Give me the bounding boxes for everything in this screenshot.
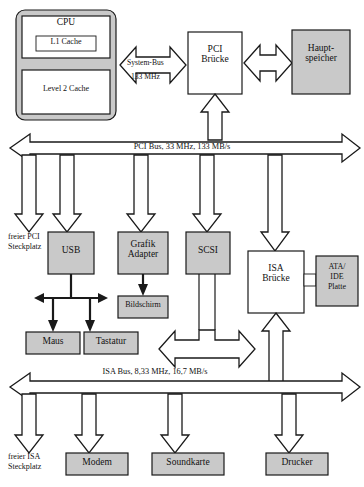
soundkarte-box — [152, 453, 224, 475]
grafik-adapter-box — [118, 232, 168, 274]
isa-bridge-from-bus-arrow — [262, 313, 290, 387]
tastatur-arrowhead — [85, 320, 95, 332]
system-bus-arrow — [120, 47, 186, 83]
maus-arrowhead — [48, 320, 58, 332]
isa-branch-drucker — [275, 394, 303, 453]
pci-bridge-box — [188, 32, 242, 94]
main-memory-box — [292, 30, 350, 94]
pci-branch-free-slot — [15, 155, 43, 232]
scsi-bus-arrow — [159, 330, 255, 367]
isa-bridge-box — [248, 251, 304, 313]
isa-ata-connector — [304, 274, 316, 286]
pci-bridge-to-bus-arrow — [201, 94, 229, 140]
pci-branch-grafik — [127, 155, 155, 232]
bildschirm-arrowhead — [138, 284, 148, 296]
isa-branch-soundkarte — [161, 394, 189, 453]
maus-box — [26, 332, 80, 354]
usb-box — [48, 232, 94, 274]
memory-bus-arrow — [244, 45, 292, 81]
isa-branch-free-slot — [15, 394, 43, 453]
bildschirm-box — [118, 296, 168, 318]
drucker-box — [266, 453, 328, 475]
usb-bus-left-arrowhead — [34, 293, 44, 303]
modem-box — [66, 453, 128, 475]
pci-branch-scsi — [193, 155, 221, 232]
diagram-vector-layer: .sh{fill:#c9c9c9;stroke:#1a1a1a;stroke-w… — [0, 0, 364, 487]
l2-cache-box — [22, 70, 110, 114]
isa-bus-arrow — [10, 373, 360, 401]
isa-branch-modem — [75, 394, 103, 453]
ata-ide-box — [316, 256, 358, 306]
diagram-canvas: .sh{fill:#c9c9c9;stroke:#1a1a1a;stroke-w… — [0, 0, 364, 487]
pci-branch-usb — [53, 155, 81, 232]
usb-bus-right-arrowhead — [98, 293, 108, 303]
l1-cache-box — [36, 36, 96, 51]
scsi-box — [186, 232, 230, 274]
pci-branch-isa-bridge — [261, 155, 289, 251]
tastatur-box — [84, 332, 138, 354]
